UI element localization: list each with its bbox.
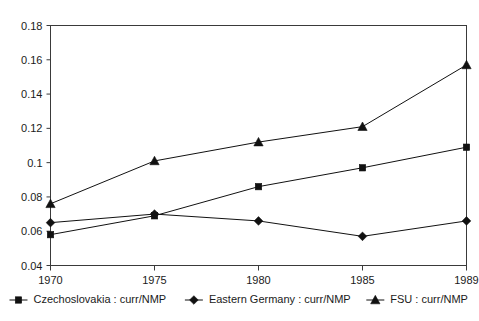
x-tick-label: 1970 (38, 274, 62, 286)
x-tick-label: 1985 (350, 274, 374, 286)
marker-diamond (254, 217, 263, 226)
marker-triangle (46, 199, 55, 207)
marker-square (463, 144, 469, 150)
marker-triangle (462, 60, 471, 68)
chart-legend: Czechoslovakia : curr/NMPEastern Germany… (9, 293, 467, 305)
marker-diamond (46, 218, 55, 227)
marker-square (15, 297, 21, 303)
y-axis-ticks: 0.040.060.080.10.120.140.160.18 (21, 20, 50, 272)
y-tick-label: 0.06 (21, 225, 42, 237)
legend-item[interactable]: FSU : curr/NMP (366, 293, 468, 305)
marker-diamond (462, 217, 471, 226)
marker-diamond (358, 232, 367, 241)
y-tick-label: 0.18 (21, 20, 42, 32)
legend-item[interactable]: Czechoslovakia : curr/NMP (9, 293, 166, 305)
x-tick-label: 1975 (142, 274, 166, 286)
legend-label: Czechoslovakia : curr/NMP (33, 293, 166, 305)
x-tick-label: 1980 (246, 274, 270, 286)
x-tick-label: 1989 (454, 274, 478, 286)
marker-square (359, 165, 365, 171)
chart-container: 0.040.060.080.10.120.140.160.18 19701975… (0, 0, 479, 321)
series-line (51, 65, 467, 204)
y-tick-label: 0.04 (21, 260, 42, 272)
x-axis-ticks: 19701975198019851989 (38, 266, 478, 286)
marker-triangle (358, 122, 367, 130)
legend-item[interactable]: Eastern Germany : curr/NMP (185, 293, 351, 305)
marker-diamond (190, 296, 199, 305)
y-tick-label: 0.14 (21, 88, 42, 100)
legend-label: FSU : curr/NMP (390, 293, 468, 305)
legend-label: Eastern Germany : curr/NMP (209, 293, 351, 305)
marker-square (255, 183, 261, 189)
series-layer (46, 60, 471, 240)
y-tick-label: 0.12 (21, 122, 42, 134)
y-tick-label: 0.1 (27, 157, 42, 169)
y-tick-label: 0.16 (21, 54, 42, 66)
data-series (46, 210, 471, 241)
marker-square (47, 231, 53, 237)
y-tick-label: 0.08 (21, 191, 42, 203)
line-chart: 0.040.060.080.10.120.140.160.18 19701975… (0, 0, 479, 321)
